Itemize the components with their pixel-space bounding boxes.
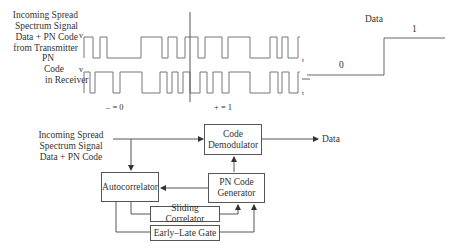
block-label: Autocorrelator [102,182,158,193]
block-label-line: Demodulator [208,140,258,151]
block-label: Early–Late Gate [154,228,217,239]
autocorrelator-to-early-late-line [116,202,150,232]
block-label-line: PN Code [218,177,256,188]
pn-code-generator-block: PN Code Generator [208,173,265,203]
block-label: Sliding Correlator [151,203,219,225]
sliding-correlator-block: Sliding Correlator [150,206,220,222]
code-demodulator-block: Code Demodulator [204,124,262,155]
early-late-to-pn-generator-arrow [219,205,254,232]
block-label-line: Generator [218,188,256,199]
output-data-label: Data [322,134,340,145]
autocorrelator-to-sliding-correlator-line [131,202,150,214]
sliding-correlator-to-pn-generator-arrow [219,205,238,214]
early-late-gate-block: Early–Late Gate [150,225,220,241]
autocorrelator-block: Autocorrelator [101,172,159,202]
block-label-line: Code [208,129,258,140]
